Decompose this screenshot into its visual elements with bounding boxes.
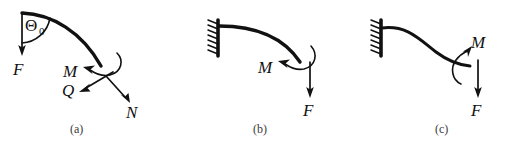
panel-a-normal-arrow-shaft [106,76,125,97]
panel-b-beam [219,26,300,62]
panel-c-moment-arc [453,51,467,84]
panel-c: M F (c) [371,20,486,136]
panel-a-force-label: F [12,60,24,79]
panel-a-normal-label: N [125,103,139,122]
panel-b-moment-label: M [257,58,273,77]
panel-a-shear-arrowhead [79,84,91,93]
panel-b-force-label: F [302,101,314,120]
panel-b: M F (b) [208,20,315,136]
panel-a-shear-label: Q [62,81,74,100]
panel-c-moment-label: M [470,33,486,52]
panel-c-force-label: F [470,101,482,120]
beam-free-body-diagram-figure: Θ 0 F M Q N (a) [0,0,512,144]
panel-a: Θ 0 F M Q N (a) [12,13,139,136]
panel-b-caption: (b) [253,122,267,136]
figure-canvas: Θ 0 F M Q N (a) [0,0,512,144]
panel-a-angle-label: Θ [25,16,37,35]
panel-a-angle-subscript: 0 [39,25,45,37]
panel-a-moment-label: M [62,62,78,81]
panel-a-caption: (a) [70,122,83,136]
panel-c-caption: (c) [435,122,448,136]
